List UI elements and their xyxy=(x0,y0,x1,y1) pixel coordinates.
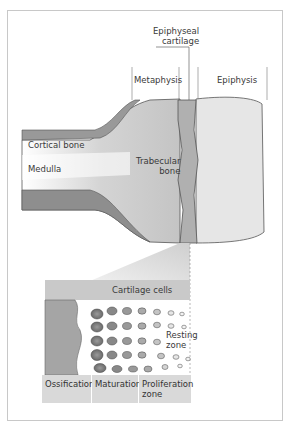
epiphyseal-cartilage-label: Epiphyseal cartilage xyxy=(153,26,199,46)
proliferation-line1: Proliferation xyxy=(142,379,188,389)
zone-ossification: Ossification xyxy=(42,375,91,403)
trabecular-line1: Trabecular xyxy=(136,156,180,166)
trabecular-bone-label: Trabecular bone xyxy=(136,156,180,176)
epiphyseal-leader xyxy=(156,47,189,100)
medulla-label: Medulla xyxy=(28,164,61,174)
resting-zone-label: Resting zone xyxy=(166,330,198,350)
epiphysis-shape xyxy=(196,97,264,243)
bone-diagram xyxy=(0,0,291,428)
growth-plate xyxy=(178,100,198,243)
ossification-region xyxy=(45,300,82,375)
epiphysis-label: Epiphysis xyxy=(217,75,257,85)
metaphysis-label: Metaphysis xyxy=(134,75,182,85)
resting-line1: Resting xyxy=(166,330,198,340)
cartilage-cells-label: Cartilage cells xyxy=(112,285,172,295)
epiphyseal-line1: Epiphyseal xyxy=(153,26,199,36)
proliferation-line2: zone xyxy=(142,389,188,399)
resting-line2: zone xyxy=(166,340,198,350)
zone-proliferation: Proliferation zone xyxy=(139,375,191,403)
epiphyseal-line2: cartilage xyxy=(153,36,199,46)
trabecular-line2: bone xyxy=(136,166,180,176)
cortical-bone-label: Cortical bone xyxy=(28,140,84,150)
zone-maturation: Maturation xyxy=(92,375,138,403)
